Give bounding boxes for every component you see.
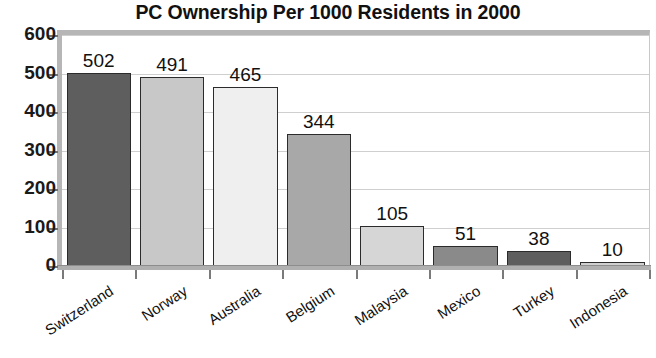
x-axis-label-text: Norway	[138, 282, 190, 324]
x-axis-tick	[282, 270, 284, 279]
gridline	[62, 35, 649, 36]
x-axis-label-text: Switzerland	[42, 282, 116, 338]
x-axis-label-text: Malaysia	[351, 282, 410, 328]
bar-value-label: 51	[433, 223, 497, 245]
y-axis-label: 200	[12, 177, 56, 199]
y-axis-label: 300	[12, 139, 56, 161]
x-axis-tick	[209, 270, 211, 279]
bar-value-label: 38	[507, 228, 571, 250]
bar-value-label: 491	[140, 54, 204, 76]
y-axis-label: 100	[12, 216, 56, 238]
x-axis-tick	[502, 270, 504, 279]
bar-value-label: 10	[580, 239, 644, 261]
bar	[213, 87, 277, 266]
bar-value-label: 344	[287, 111, 351, 133]
bar-value-label: 502	[67, 50, 131, 72]
bar-value-label: 465	[213, 64, 277, 86]
x-axis-label-text: Turkey	[510, 282, 557, 321]
x-axis-tick	[576, 270, 578, 279]
y-axis-label: 500	[12, 62, 56, 84]
x-axis-tick	[62, 270, 64, 279]
plot-area: 502491465344105513810	[62, 35, 649, 266]
x-axis-tick	[649, 270, 651, 279]
y-axis-label: 0	[12, 254, 56, 276]
x-axis-tick	[356, 270, 358, 279]
x-axis-label-text: Mexico	[435, 282, 484, 322]
bar	[67, 73, 131, 266]
bar-chart: PC Ownership Per 1000 Residents in 2000 …	[0, 0, 656, 358]
x-axis-tick	[429, 270, 431, 279]
bar	[287, 134, 351, 266]
bar-value-label: 105	[360, 203, 424, 225]
chart-title: PC Ownership Per 1000 Residents in 2000	[0, 1, 656, 24]
bar	[140, 77, 204, 266]
y-axis-label: 600	[12, 23, 56, 45]
y-axis-label: 400	[12, 100, 56, 122]
x-axis-label-text: Australia	[205, 282, 263, 328]
x-axis-label-text: Belgium	[282, 282, 337, 326]
x-axis-tick	[135, 270, 137, 279]
x-axis-label-text: Indonesia	[567, 282, 631, 332]
